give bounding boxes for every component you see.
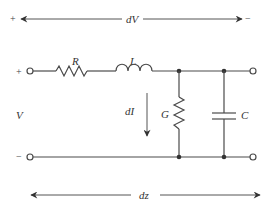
input-voltage-label: V bbox=[16, 109, 24, 121]
dv-label: dV bbox=[126, 13, 140, 25]
current-arrow: dI bbox=[125, 93, 147, 136]
shunt-capacitor-branch: C bbox=[212, 71, 249, 157]
input-minus-sign: − bbox=[16, 151, 22, 162]
input-plus-sign: + bbox=[16, 66, 22, 77]
capacitor-c-label: C bbox=[241, 109, 249, 121]
output-bottom-terminal-icon bbox=[250, 154, 256, 160]
resistor-r-label: R bbox=[71, 55, 79, 67]
resistor-r-icon bbox=[56, 66, 87, 76]
voltage-drop-arrow: + dV − bbox=[10, 13, 251, 25]
di-label: dI bbox=[125, 105, 136, 117]
bottom-rail: − bbox=[16, 151, 256, 162]
dv-minus-sign: − bbox=[245, 13, 251, 24]
junction-dot-icon bbox=[177, 155, 182, 160]
segment-length-arrow: dz bbox=[31, 189, 260, 201]
shunt-conductance-branch: G bbox=[161, 71, 184, 157]
dz-label: dz bbox=[139, 189, 150, 201]
junction-dot-icon bbox=[222, 155, 227, 160]
input-top-terminal-icon bbox=[27, 68, 33, 74]
dv-plus-sign: + bbox=[10, 13, 16, 24]
input-bottom-terminal-icon bbox=[27, 154, 33, 160]
conductance-g-icon bbox=[174, 97, 184, 129]
output-top-terminal-icon bbox=[250, 68, 256, 74]
conductance-g-label: G bbox=[161, 108, 169, 120]
circuit-diagram: + dV − R L + dI bbox=[0, 0, 270, 213]
